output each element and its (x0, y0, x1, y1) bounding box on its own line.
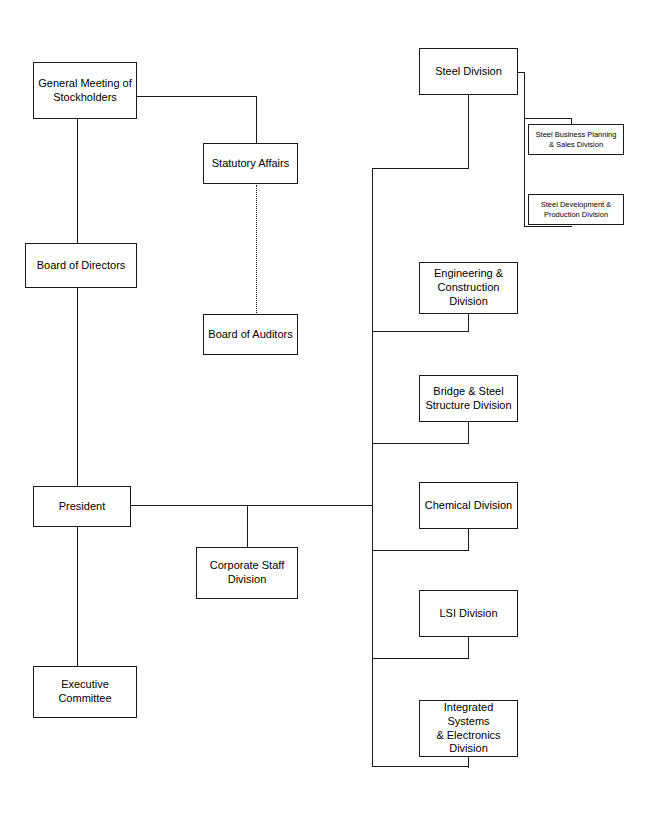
org-node-general_meeting[interactable]: General Meeting of Stockholders (33, 62, 137, 119)
org-node-engineering[interactable]: Engineering & Construction Division (419, 262, 518, 314)
connector-int-to-spine (372, 766, 469, 767)
org-node-board_directors[interactable]: Board of Directors (25, 243, 137, 288)
connector-steel-sub-spine (524, 72, 525, 227)
connector-eng-bottom-drop (468, 314, 469, 332)
connector-gm-right-to-sa (137, 96, 257, 97)
connector-chem-bottom-drop (468, 529, 469, 551)
org-node-label-statutory_affairs: Statutory Affairs (209, 157, 292, 171)
connector-steel-bottom-drop (468, 95, 469, 169)
connector-pres-down-to-exec (77, 527, 78, 667)
connector-pres-right-main (131, 505, 373, 506)
connector-bod-down-to-pres (77, 288, 78, 487)
connector-spine-to-steel (372, 168, 469, 169)
connector-steel-sub-bottom (524, 226, 572, 227)
org-node-label-chemical: Chemical Division (422, 499, 515, 513)
org-node-label-president: President (56, 500, 108, 514)
org-node-label-steel_production: Steel Development & Production Division (538, 200, 614, 219)
connector-sa-drop (256, 96, 257, 144)
connector-eng-to-spine (372, 331, 469, 332)
connector-chem-to-spine (372, 550, 469, 551)
org-node-steel_planning[interactable]: Steel Business Planning & Sales Division (528, 124, 624, 155)
connector-corp-staff-drop (247, 505, 248, 548)
org-node-label-steel_planning: Steel Business Planning & Sales Division (533, 130, 620, 149)
connector-lsi-to-spine (372, 658, 469, 659)
org-node-label-general_meeting: General Meeting of Stockholders (35, 77, 135, 105)
org-node-steel_production[interactable]: Steel Development & Production Division (528, 194, 624, 225)
org-node-label-lsi: LSI Division (436, 607, 500, 621)
connector-gm-down-to-bod (77, 119, 78, 244)
connector-lsi-bottom-drop (468, 637, 469, 659)
org-node-label-bridge: Bridge & Steel Structure Division (422, 385, 514, 413)
org-node-integrated[interactable]: Integrated Systems & Electronics Divisio… (419, 700, 518, 757)
org-node-label-executive_comm: Executive Committee (55, 678, 114, 706)
org-node-chemical[interactable]: Chemical Division (419, 482, 518, 529)
org-node-bridge[interactable]: Bridge & Steel Structure Division (419, 375, 518, 422)
org-node-label-board_directors: Board of Directors (34, 259, 129, 273)
connector-spine-main (372, 168, 373, 766)
org-node-label-integrated: Integrated Systems & Electronics Divisio… (420, 701, 517, 756)
connector-steel-sub1-in (524, 118, 572, 119)
org-node-president[interactable]: President (33, 486, 131, 527)
org-node-label-corporate_staff: Corporate Staff Division (207, 559, 287, 587)
connector-bridge-to-spine (372, 443, 469, 444)
org-node-label-engineering: Engineering & Construction Division (431, 267, 506, 308)
org-node-board_auditors[interactable]: Board of Auditors (203, 314, 298, 355)
org-node-steel[interactable]: Steel Division (419, 48, 518, 95)
org-chart-canvas: General Meeting of StockholdersStatutory… (0, 0, 653, 819)
org-node-label-board_auditors: Board of Auditors (205, 328, 295, 342)
connector-bridge-bottom-drop (468, 422, 469, 444)
org-node-statutory_affairs[interactable]: Statutory Affairs (203, 143, 298, 184)
org-node-executive_comm[interactable]: Executive Committee (33, 666, 137, 718)
org-node-lsi[interactable]: LSI Division (419, 590, 518, 637)
org-node-corporate_staff[interactable]: Corporate Staff Division (196, 547, 298, 599)
connector-sa-auditors-dotted (256, 185, 257, 315)
org-node-label-steel: Steel Division (432, 65, 505, 79)
